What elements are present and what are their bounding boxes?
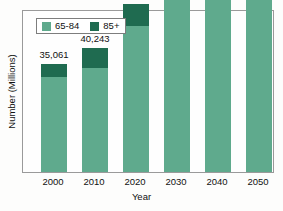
plot-area: 35,061 40,243 54,632 [23, 11, 273, 172]
legend-label-65-84: 65-84 [55, 21, 79, 31]
x-axis-title: Year [0, 191, 283, 202]
bar-stack-2050 [246, 0, 272, 172]
legend-swatch-85-plus [90, 22, 99, 31]
x-tick-2050: 2050 [247, 176, 268, 187]
bar-segment-65-84-2050[interactable] [246, 0, 272, 172]
chart-screenshot: 35,061 40,243 54,632 [0, 0, 283, 211]
x-tick-2010: 2010 [83, 176, 104, 187]
legend-swatch-65-84 [42, 22, 51, 31]
bar-value-2000: 35,061 [39, 49, 68, 60]
bar-value-2010: 40,243 [80, 33, 109, 44]
x-tick-2040: 2040 [206, 176, 227, 187]
bar-stack-2020 [123, 4, 149, 172]
bar-stack-2010 [82, 48, 108, 172]
legend-entry-85-plus[interactable]: 85+ [90, 21, 119, 31]
bar-stack-2030 [164, 0, 190, 172]
chart-plot-frame: 35,061 40,243 54,632 [22, 10, 274, 173]
bar-segment-65-84-2010[interactable] [82, 68, 108, 172]
x-tick-2000: 2000 [42, 176, 63, 187]
y-axis-title: Number (Millions) [6, 27, 17, 157]
x-tick-2020: 2020 [124, 176, 145, 187]
chart-legend: 65-84 85+ [36, 18, 126, 34]
bar-segment-65-84-2000[interactable] [41, 77, 67, 172]
legend-entry-65-84[interactable]: 65-84 [42, 21, 79, 31]
bar-segment-85-plus-2010[interactable] [82, 48, 108, 68]
bar-stack-2040 [205, 0, 231, 172]
bar-segment-85-plus-2000[interactable] [41, 64, 67, 77]
bar-segment-65-84-2030[interactable] [164, 0, 190, 172]
bar-segment-85-plus-2020[interactable] [123, 4, 149, 26]
bar-segment-65-84-2040[interactable] [205, 0, 231, 172]
bar-stack-2000 [41, 64, 67, 172]
legend-label-85-plus: 85+ [103, 21, 119, 31]
bar-segment-65-84-2020[interactable] [123, 26, 149, 172]
x-tick-2030: 2030 [165, 176, 186, 187]
